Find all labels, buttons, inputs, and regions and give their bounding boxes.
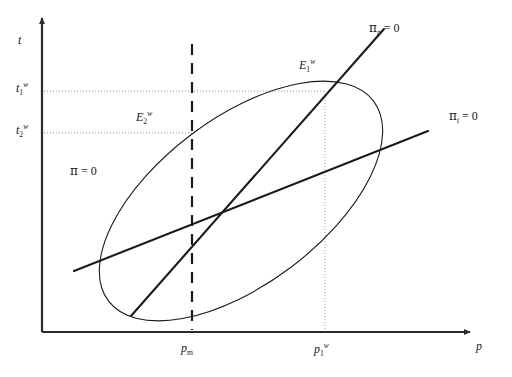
y-tick-t1w-sub: 1 xyxy=(19,88,23,97)
pi-p-equals-zero-rhs: = 0 xyxy=(381,21,400,35)
y-tick-t1w-sup: w xyxy=(23,80,28,89)
pi-glyph: π xyxy=(369,21,377,35)
pi-equals-zero-label: π = 0 xyxy=(70,165,97,177)
x-tick-p1w-sup: w xyxy=(324,341,329,350)
pi-t-equals-zero-rhs: = 0 xyxy=(459,109,478,123)
x-tick-label-p1w: p1w xyxy=(314,342,329,358)
y-tick-t2w-sup: w xyxy=(23,122,28,131)
x-tick-pm-sub: m xyxy=(187,348,193,357)
y-tick-label-t2w: t2w xyxy=(16,123,28,139)
equilibrium-label-E1w: E1w xyxy=(299,58,315,74)
y-axis-label: t xyxy=(18,34,21,46)
x-axis-label: p xyxy=(476,340,482,352)
E2w-sup: w xyxy=(147,109,152,118)
phase-diagram-figure: t p t1w t2w pm p1w π = 0 πp = 0 πt = 0 E… xyxy=(0,0,512,377)
pi-p-equals-zero-label: πp = 0 xyxy=(369,22,400,37)
y-tick-t2w-sub: 2 xyxy=(19,130,23,139)
diagram-canvas xyxy=(0,0,512,377)
E1w-sub: 1 xyxy=(306,65,310,74)
equilibrium-label-E2w: E2w xyxy=(136,110,152,126)
y-tick-label-t1w: t1w xyxy=(16,81,28,97)
pi-p-equals-zero-locus xyxy=(131,29,384,316)
pi-equals-zero-ellipse xyxy=(58,35,423,367)
E1w-sup: w xyxy=(310,57,315,66)
pi-glyph: π xyxy=(70,164,78,178)
pi-glyph: π xyxy=(449,109,457,123)
E2w-sub: 2 xyxy=(143,117,147,126)
pi-t-equals-zero-locus xyxy=(74,131,428,271)
pi-t-equals-zero-label: πt = 0 xyxy=(449,110,478,125)
pi-equals-zero-rhs: = 0 xyxy=(78,164,97,178)
x-tick-p1w-sub: 1 xyxy=(320,349,324,358)
x-tick-label-pm: pm xyxy=(181,342,193,357)
